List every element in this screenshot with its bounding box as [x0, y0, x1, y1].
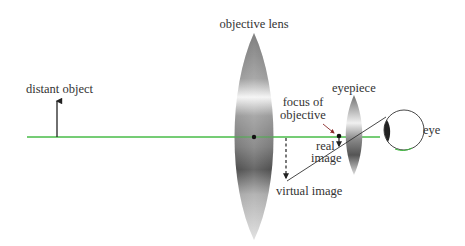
objective-lens-label: objective lens: [214, 18, 294, 31]
virtual-image-label: virtual image: [276, 185, 342, 198]
eye-icon: [384, 110, 424, 150]
eyepiece-label: eyepiece: [332, 82, 376, 95]
focus-pointer-arrow: [323, 124, 334, 133]
objective-center-dot: [252, 135, 256, 139]
telescope-diagram: objective lens distant object eyepiece f…: [0, 0, 465, 246]
eyepiece-lens: [346, 95, 363, 175]
diagram-canvas: [0, 0, 465, 246]
real-image-label-line2: image: [311, 152, 342, 165]
distant-object-label: distant object: [26, 83, 93, 96]
ray-to-eye: [287, 117, 386, 181]
focus-of-objective-label-line2: objective: [278, 109, 328, 122]
eye-label: eye: [423, 124, 440, 137]
